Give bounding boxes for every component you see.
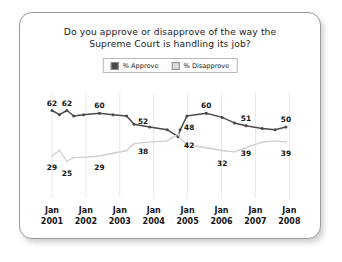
data-point[interactable] <box>261 127 264 130</box>
chart-title-line-2: Supreme Court is handling its job? <box>20 38 320 50</box>
data-point[interactable] <box>98 155 100 157</box>
data-label: 38 <box>138 146 148 155</box>
data-label: 29 <box>47 163 57 172</box>
data-label: 32 <box>217 158 227 167</box>
x-axis: Jan2001Jan2002Jan2003Jan2004Jan2005Jan20… <box>20 200 322 234</box>
x-tick-month: Jan <box>267 206 311 217</box>
line-chart-svg <box>20 93 322 198</box>
data-label: 51 <box>241 113 251 122</box>
data-point[interactable] <box>166 128 169 131</box>
data-point[interactable] <box>148 126 151 129</box>
data-point[interactable] <box>284 126 287 129</box>
data-label: 39 <box>241 149 251 158</box>
data-point[interactable] <box>51 155 53 157</box>
data-label: 62 <box>47 98 57 107</box>
data-label: 50 <box>281 115 291 124</box>
data-point[interactable] <box>72 115 75 118</box>
data-label: 52 <box>138 117 148 126</box>
data-point[interactable] <box>65 109 68 112</box>
data-point[interactable] <box>82 156 84 158</box>
legend-item-disapprove[interactable]: % Disapprove <box>172 62 230 70</box>
data-label: 48 <box>184 122 194 131</box>
chart-title-line-1: Do you approve or disapprove of the way … <box>20 26 320 38</box>
data-label: 62 <box>62 98 72 107</box>
data-point[interactable] <box>233 151 235 153</box>
data-point[interactable] <box>98 112 101 115</box>
plot-area <box>20 93 322 198</box>
data-point[interactable] <box>133 123 136 126</box>
data-point[interactable] <box>112 113 115 116</box>
data-point[interactable] <box>133 142 135 144</box>
data-point[interactable] <box>179 137 181 139</box>
data-label: 25 <box>62 168 72 177</box>
legend-label-disapprove: % Disapprove <box>184 62 230 70</box>
data-point[interactable] <box>244 124 247 127</box>
data-point[interactable] <box>274 140 276 142</box>
data-label: 60 <box>94 101 104 110</box>
legend-swatch-approve <box>111 62 119 70</box>
data-point[interactable] <box>185 115 188 118</box>
data-point[interactable] <box>58 113 61 116</box>
data-label: 60 <box>201 101 211 110</box>
data-point[interactable] <box>125 115 128 118</box>
legend-label-approve: % Approve <box>123 62 159 70</box>
data-point[interactable] <box>205 147 207 149</box>
data-point[interactable] <box>261 141 263 143</box>
data-label: 39 <box>281 149 291 158</box>
data-point[interactable] <box>233 121 236 124</box>
data-point[interactable] <box>66 160 68 162</box>
x-tick-year: 2008 <box>267 217 311 228</box>
legend-swatch-disapprove <box>172 62 180 70</box>
legend-item-approve[interactable]: % Approve <box>111 62 159 70</box>
data-point[interactable] <box>73 156 75 158</box>
chart-card: Do you approve or disapprove of the way … <box>19 12 321 239</box>
data-point[interactable] <box>125 149 127 151</box>
chart-title: Do you approve or disapprove of the way … <box>20 26 320 51</box>
data-point[interactable] <box>274 128 277 131</box>
data-point[interactable] <box>166 140 168 142</box>
data-point[interactable] <box>221 149 223 151</box>
data-point[interactable] <box>58 149 60 151</box>
data-point[interactable] <box>51 109 54 112</box>
chart-legend: % Approve % Disapprove <box>103 58 238 73</box>
x-tick-jan-2008: Jan2008 <box>267 206 311 227</box>
data-point[interactable] <box>177 133 179 135</box>
data-point[interactable] <box>148 141 150 143</box>
data-point[interactable] <box>285 141 287 143</box>
data-point[interactable] <box>221 116 224 119</box>
data-point[interactable] <box>112 152 114 154</box>
data-label: 29 <box>94 163 104 172</box>
data-label: 42 <box>184 141 194 150</box>
data-point[interactable] <box>82 113 85 116</box>
data-point[interactable] <box>179 128 182 131</box>
data-point[interactable] <box>205 112 208 115</box>
